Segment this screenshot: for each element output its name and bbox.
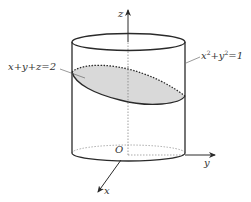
x-axis-label: x — [104, 186, 110, 196]
bottom-ellipse-back — [72, 145, 185, 153]
cylinder-label-leader — [186, 57, 200, 63]
y-axis-label: y — [204, 158, 210, 168]
plane-intersection-ellipse — [72, 65, 185, 104]
origin-label: O — [115, 145, 123, 155]
z-axis-label: z — [118, 9, 123, 19]
cylinder-equation-label: x2+y2=1 — [201, 50, 243, 61]
diagram-canvas — [0, 0, 251, 202]
cyl-y: +y — [210, 50, 224, 61]
cylinder-plane-diagram: z y x O x+y+z=2 x2+y2=1 — [0, 0, 251, 202]
cyl-eq: =1 — [228, 50, 243, 61]
bottom-ellipse-front — [72, 153, 185, 161]
plane-equation-label: x+y+z=2 — [8, 62, 56, 72]
